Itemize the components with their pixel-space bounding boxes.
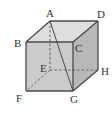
vertex-label-B: B bbox=[14, 37, 21, 49]
vertex-label-A: A bbox=[46, 7, 54, 19]
vertex-label-G: G bbox=[70, 93, 78, 105]
vertex-label-F: F bbox=[16, 92, 22, 104]
cube-diagram: A D B C E H F G bbox=[0, 0, 112, 116]
vertex-label-C: C bbox=[75, 42, 82, 54]
vertex-label-E: E bbox=[40, 62, 47, 74]
vertex-label-H: H bbox=[101, 65, 109, 77]
vertex-label-D: D bbox=[97, 8, 105, 20]
